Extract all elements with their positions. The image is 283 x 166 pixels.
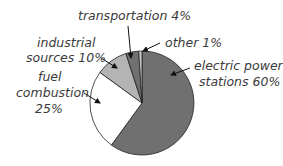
arrow-other: [143, 43, 160, 51]
label-electric-line1: electric power: [194, 58, 283, 73]
label-fuel-line3: 25%: [35, 101, 63, 116]
label-electric-line2: stations 60%: [199, 74, 280, 89]
label-other: other 1%: [165, 35, 222, 50]
label-transportation: transportation 4%: [78, 8, 191, 23]
label-industrial-line2: sources 10%: [26, 50, 106, 65]
label-industrial-line1: industrial: [37, 35, 96, 50]
pie-chart: transportation 4% other 1% industrial so…: [0, 0, 283, 166]
label-fuel-line1: fuel: [38, 69, 62, 84]
label-fuel-line2: combustion: [16, 85, 89, 100]
